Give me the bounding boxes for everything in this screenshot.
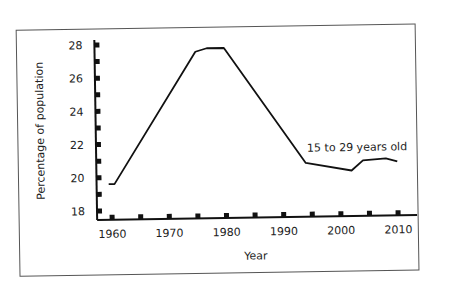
x-tick-mark	[224, 213, 229, 218]
x-tick-mark	[110, 215, 115, 220]
y-tick-label: 24	[69, 106, 83, 119]
x-tick-label: 2010	[384, 223, 412, 236]
y-axis-label: Percentage of population	[33, 62, 48, 200]
y-tick-mark	[95, 76, 100, 81]
x-tick-mark	[281, 212, 286, 217]
x-tick-mark	[167, 214, 172, 219]
x-tick-mark	[195, 213, 200, 218]
y-tick-label: 20	[70, 172, 84, 185]
chart-figure: 182022242628196019701980199020002010 15 …	[0, 0, 449, 293]
y-tick-mark	[96, 175, 101, 180]
x-tick-mark	[310, 212, 315, 217]
x-tick-mark	[396, 210, 401, 215]
x-tick-mark	[138, 214, 143, 219]
x-tick-mark	[367, 211, 372, 216]
x-tick-label: 1960	[98, 228, 126, 241]
y-tick-mark	[96, 159, 101, 164]
y-tick-mark	[95, 109, 100, 114]
y-tick-mark	[97, 192, 102, 197]
x-tick-label: 1970	[155, 227, 183, 240]
y-tick-label: 22	[70, 139, 84, 152]
x-tick-label: 1990	[270, 225, 298, 238]
x-tick-mark	[253, 212, 258, 217]
y-tick-label: 26	[69, 72, 83, 85]
series-annotation: 15 to 29 years old	[307, 140, 407, 155]
x-tick-label: 1980	[213, 226, 241, 239]
y-tick-mark	[96, 125, 101, 130]
x-tick-mark	[338, 211, 343, 216]
x-axis-label: Year	[243, 249, 268, 262]
y-tick-mark	[96, 142, 101, 147]
x-tick-label: 2000	[327, 224, 355, 237]
y-tick-mark	[94, 42, 99, 47]
y-tick-mark	[95, 92, 100, 97]
y-tick-label: 28	[68, 39, 82, 52]
y-tick-label: 18	[71, 205, 85, 218]
y-tick-mark	[95, 59, 100, 64]
y-tick-mark	[97, 208, 102, 213]
